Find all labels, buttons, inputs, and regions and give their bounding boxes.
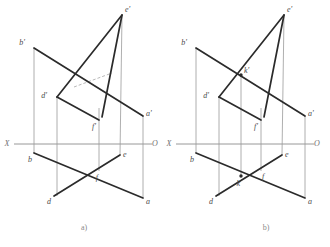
edge-d1-f1	[219, 97, 261, 120]
point-label-d: d	[209, 197, 214, 206]
point-label-b: b	[190, 155, 194, 164]
point-marker-k	[239, 174, 242, 177]
figure-caption: b)	[263, 223, 270, 232]
point-label-e-prime: e'	[125, 5, 131, 14]
point-label-e: e	[285, 150, 289, 159]
edge-d1-f1	[57, 97, 99, 120]
figure-caption: a)	[81, 223, 88, 232]
axis-label-o: O	[152, 139, 158, 148]
projection-drawing: e'b'd'f'a'befdaXOa)e'b'k'd'f'a'befkdaXOb…	[0, 0, 330, 247]
point-label-a-prime: a'	[146, 109, 152, 118]
figure-b: e'b'k'd'f'a'befkdaXOb)	[166, 5, 321, 232]
projector-e-line	[120, 15, 122, 155]
point-label-f-prime: f'	[254, 122, 258, 131]
drawing-canvas: e'b'd'f'a'befdaXOa)e'b'k'd'f'a'befkdaXOb…	[0, 0, 330, 247]
projector-e-line	[282, 15, 284, 155]
point-marker-k-prime	[239, 73, 242, 76]
point-label-b-prime: b'	[19, 38, 25, 47]
edge-d-e	[54, 155, 120, 196]
point-label-f: f	[262, 172, 266, 181]
figures-root: e'b'd'f'a'befdaXOa)e'b'k'd'f'a'befkdaXOb…	[4, 5, 321, 232]
point-label-d: d	[47, 197, 52, 206]
point-label-f-prime: f'	[92, 122, 96, 131]
edge-d-e	[216, 155, 282, 196]
point-label-e-prime: e'	[287, 5, 293, 14]
point-label-k-prime: k'	[244, 66, 250, 75]
point-label-a: a	[146, 197, 150, 206]
point-label-d-prime: d'	[203, 91, 209, 100]
point-label-k: k	[236, 179, 240, 188]
edge-d1-e1	[57, 15, 122, 97]
point-label-d-prime: d'	[41, 91, 47, 100]
point-label-b-prime: b'	[181, 38, 187, 47]
point-label-a: a	[308, 197, 312, 206]
axis-label-x: X	[166, 139, 173, 148]
point-label-b: b	[28, 155, 32, 164]
point-label-e: e	[123, 150, 127, 159]
point-label-a-prime: a'	[308, 109, 314, 118]
figure-a: e'b'd'f'a'befdaXOa)	[4, 5, 159, 232]
axis-label-x: X	[4, 139, 11, 148]
axis-label-o: O	[314, 139, 320, 148]
edge-d1-e1	[219, 15, 284, 97]
